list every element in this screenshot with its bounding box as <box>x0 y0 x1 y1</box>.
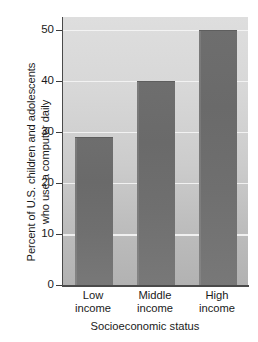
y-tick-mark <box>56 81 62 82</box>
y-tick-mark <box>56 234 62 235</box>
x-tick-label: Middleincome <box>124 289 186 315</box>
y-axis-tick-labels: 01020304050 <box>26 0 54 342</box>
bar <box>199 30 237 285</box>
plot-area <box>62 17 248 285</box>
bar <box>137 81 175 285</box>
x-tick-label-line-1: Middle <box>124 289 186 302</box>
x-axis-line <box>62 285 249 287</box>
bar <box>75 137 113 285</box>
y-tick-mark <box>56 285 62 286</box>
x-tick-label-line-1: Low <box>62 289 124 302</box>
y-tick-label: 30 <box>28 126 54 138</box>
y-tick-mark <box>56 132 62 133</box>
y-tick-label: 0 <box>28 279 54 291</box>
x-tick-label-line-2: income <box>62 302 124 315</box>
x-tick-label-line-2: income <box>186 302 248 315</box>
y-tick-mark <box>56 30 62 31</box>
bar-series <box>63 17 248 285</box>
x-tick-label: Highincome <box>186 289 248 315</box>
y-tick-label: 50 <box>28 24 54 36</box>
y-tick-label: 10 <box>28 228 54 240</box>
x-tick-label-line-1: High <box>186 289 248 302</box>
bar-chart-figure: Percent of U.S. children and adolescents… <box>0 0 258 342</box>
x-axis-title: Socioeconomic status <box>40 320 250 333</box>
x-tick-label-line-2: income <box>124 302 186 315</box>
x-axis-tick-labels: LowincomeMiddleincomeHighincome <box>62 289 248 319</box>
x-tick-label: Lowincome <box>62 289 124 315</box>
y-tick-mark <box>56 183 62 184</box>
y-tick-label: 40 <box>28 75 54 87</box>
y-tick-label: 20 <box>28 177 54 189</box>
